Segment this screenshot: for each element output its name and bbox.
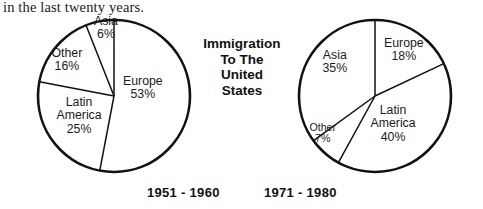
chart-title-line-2: To The — [196, 52, 288, 68]
slice-label-europe: Europe18% — [384, 37, 424, 64]
slice-label-name: Europe — [384, 37, 424, 50]
slice-label-name: Other — [52, 47, 83, 60]
slice-label-name: Asia — [323, 49, 348, 62]
slice-label-value: 18% — [384, 50, 424, 63]
slice-label-latin-america: LatinAmerica25% — [57, 96, 102, 136]
slice-label-name: Asia — [94, 15, 118, 28]
slice-label-value: 6% — [94, 28, 118, 41]
slice-label-asia: Asia35% — [323, 49, 348, 76]
chart-title-line-1: Immigration — [196, 36, 288, 52]
period-label-pie-1971-1980: 1971 - 1980 — [264, 185, 337, 200]
chart-title: Immigration To The United States — [196, 36, 288, 98]
slice-label-value: 35% — [323, 62, 348, 75]
pie-1971-1980 — [299, 20, 451, 172]
slice-label-value: 7% — [310, 133, 337, 144]
slice-label-name: Latin — [57, 96, 102, 109]
slice-label-asia: Asia6% — [94, 15, 118, 42]
slice-label-value: 40% — [371, 131, 416, 144]
slice-label-latin-america: LatinAmerica40% — [371, 104, 416, 144]
slice-label-value: 16% — [52, 60, 83, 73]
chart-title-line-3: United — [196, 67, 288, 83]
chart-title-line-4: States — [196, 83, 288, 99]
slice-label-name: America — [371, 117, 416, 130]
slice-label-other: Other16% — [52, 47, 83, 74]
slice-label-other: Other7% — [310, 122, 337, 145]
slice-label-europe: Europe53% — [123, 75, 163, 102]
slice-label-name: America — [57, 109, 102, 122]
slice-label-value: 53% — [123, 88, 163, 101]
slice-label-name: Latin — [371, 104, 416, 117]
slice-label-name: Europe — [123, 75, 163, 88]
slice-label-value: 25% — [57, 123, 102, 136]
period-label-pie-1951-1960: 1951 - 1960 — [147, 185, 220, 200]
figure-immigration-pie-charts: in the last twenty years. Immigration To… — [0, 0, 483, 209]
